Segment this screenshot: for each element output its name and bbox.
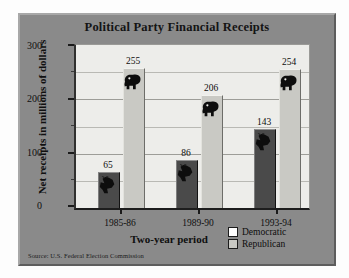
- bar-value-label: 86: [181, 148, 191, 158]
- x-tick-mark-1985-86: [120, 208, 122, 214]
- x-tick-label-1989-90: 1989-90: [168, 218, 228, 228]
- legend-swatch-democratic: [228, 227, 238, 237]
- chart-title: Political Party Financial Receipts: [20, 20, 334, 35]
- elephant-icon: [200, 99, 222, 119]
- y-tick-label-100: 100: [8, 148, 42, 158]
- elephant-icon: [122, 72, 144, 92]
- donkey-icon: [175, 164, 197, 184]
- legend-item-democratic: Democratic: [228, 227, 324, 237]
- y-axis-title: Net receipts in millions of dollars: [36, 32, 48, 202]
- donkey-icon: [253, 133, 275, 153]
- x-tick-mark-1989-90: [198, 208, 200, 214]
- bar-democratic-1989-90: 86: [176, 161, 196, 208]
- source-note: Source: U.S. Federal Election Commission: [28, 252, 144, 259]
- plot-area: 65 255 1985-86 86: [74, 44, 310, 210]
- bar-republican-1985-86: 255: [123, 69, 143, 208]
- bar-value-label: 254: [282, 57, 296, 67]
- bar-republican-1993-94: 254: [279, 70, 299, 208]
- bar-value-label: 143: [257, 117, 271, 127]
- bar-value-label: 65: [103, 160, 113, 170]
- bar-democratic-1993-94: 143: [254, 130, 274, 208]
- gridline-150: [76, 127, 309, 128]
- gridline-200: [76, 99, 309, 100]
- x-tick-mark-1993-94: [276, 208, 278, 214]
- elephant-icon: [278, 73, 300, 93]
- bar-value-label: 206: [204, 83, 218, 93]
- x-tick-label-1985-86: 1985-86: [90, 218, 150, 228]
- bar-republican-1989-90: 206: [201, 96, 221, 208]
- y-tick-label-0: 0: [8, 201, 42, 211]
- legend-label-democratic: Democratic: [242, 227, 286, 237]
- legend: Democratic Republican: [228, 227, 324, 251]
- bar-democratic-1985-86: 65: [98, 173, 118, 208]
- gridline-250: [76, 72, 309, 73]
- chart-panel: Political Party Financial Receipts Net r…: [18, 13, 336, 266]
- legend-swatch-republican: [228, 239, 238, 249]
- y-tick-label-200: 200: [8, 94, 42, 104]
- bar-value-label: 255: [126, 56, 140, 66]
- donkey-icon: [97, 176, 119, 196]
- legend-label-republican: Republican: [242, 239, 285, 249]
- legend-item-republican: Republican: [228, 239, 324, 249]
- chart-image: Political Party Financial Receipts Net r…: [0, 0, 349, 278]
- y-tick-label-300: 300: [8, 41, 42, 51]
